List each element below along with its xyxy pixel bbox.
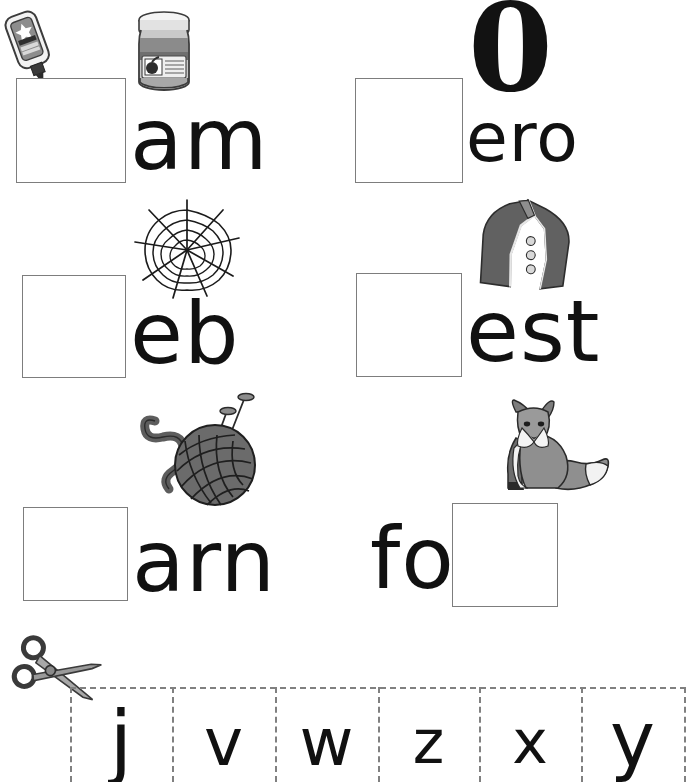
yarn-ball-clipart — [125, 393, 265, 515]
cut-letter-tile[interactable]: j — [70, 700, 172, 782]
cut-letter-tile[interactable]: y — [581, 702, 684, 778]
worksheet-page: am 0 ero eb — [0, 0, 686, 782]
answer-box-fox[interactable] — [452, 503, 558, 607]
cut-strip: j v w z x y — [0, 680, 686, 782]
answer-box-web[interactable] — [22, 275, 126, 378]
fox-clipart — [460, 398, 610, 500]
word-fragment-web: eb — [130, 290, 240, 376]
answer-box-jam[interactable] — [16, 78, 126, 183]
answer-box-yarn[interactable] — [23, 507, 128, 601]
cut-letter-tile[interactable]: z — [378, 712, 479, 772]
cut-letter-tile[interactable]: w — [275, 710, 378, 776]
word-fragment-zero: ero — [466, 104, 579, 172]
word-fragment-vest: est — [466, 288, 600, 374]
answer-box-zero[interactable] — [355, 78, 463, 183]
answer-box-vest[interactable] — [356, 273, 462, 377]
word-fragment-fox: fo — [370, 515, 455, 601]
word-fragment-yarn: arn — [132, 518, 276, 604]
cut-letter-tile[interactable]: v — [172, 710, 275, 776]
word-fragment-jam: am — [130, 96, 268, 182]
number-zero-clipart: 0 — [468, 0, 553, 108]
cut-letter-tile[interactable]: x — [479, 712, 581, 772]
jam-jar-clipart — [128, 6, 200, 100]
